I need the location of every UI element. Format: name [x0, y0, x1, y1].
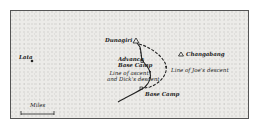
ascent-route-label: Line of ascent and Dick's descent: [107, 71, 151, 82]
changabang-peak-icon: [179, 52, 184, 56]
lata-label: Lata: [19, 55, 33, 61]
advance-base-camp-label: Advance Base Camp: [118, 57, 142, 68]
scale-label: Miles: [30, 103, 45, 109]
dunagiri-peak-icon: [133, 38, 139, 43]
joes-descent-label: Line of Joe's descent: [171, 68, 229, 74]
ascent-route-label-line2: and Dick's descent: [107, 77, 151, 83]
changabang-label: Changabang: [186, 52, 225, 58]
advance-base-camp-label-line2: Base Camp: [118, 63, 142, 69]
dunagiri-label: Dunagiri: [105, 38, 132, 44]
base-camp-label: Base Camp: [145, 92, 179, 98]
